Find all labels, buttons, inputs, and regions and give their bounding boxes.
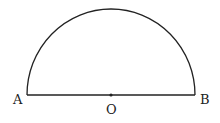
semicircle-diagram: A O B	[0, 0, 220, 123]
label-a: A	[12, 92, 23, 107]
center-point-o	[109, 93, 112, 96]
label-o: O	[106, 102, 117, 117]
label-b: B	[200, 92, 210, 107]
semicircle-arc	[27, 9, 195, 95]
